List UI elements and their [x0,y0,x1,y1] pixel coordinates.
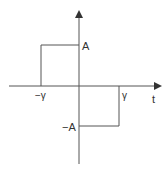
negative-pulse [79,86,119,126]
label-t-axis: t [152,93,155,105]
label-time-pos: γ [122,90,127,101]
label-time-neg: −γ [35,90,46,101]
positive-pulse [41,45,79,86]
label-amp-neg: −A [62,121,76,133]
label-amp-pos: A [82,40,90,52]
waveform-diagram: A −A −γ γ t [0,0,168,172]
